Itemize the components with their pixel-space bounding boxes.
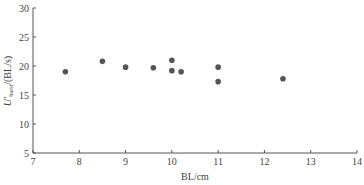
data-point [215,79,221,85]
y-tick-label: 5 [24,148,29,159]
data-point [123,64,129,70]
data-point [169,57,175,63]
y-tick-label: 15 [19,90,29,101]
data-point [169,68,175,74]
x-tick-label: 11 [213,156,223,167]
data-point [63,69,69,75]
data-point [280,76,286,82]
x-tick-label: 10 [167,156,177,167]
x-axis-label: BL/cm [181,171,209,182]
data-point [100,59,106,65]
y-tick-label: 20 [19,61,29,72]
x-tick-label: 12 [259,156,269,167]
scatter-chart: 510152025307891011121314 BL/cm U'burst/(… [0,0,364,185]
x-tick-label: 9 [123,156,128,167]
y-axis-label-sub: burst [8,84,14,96]
data-point [215,64,221,70]
y-axis-label: U'burst/(BL/s) [2,56,14,106]
y-tick-label: 10 [19,119,29,130]
data-points [63,57,286,84]
y-axis-label-unit: /(BL/s) [2,56,14,85]
x-tick-label: 8 [77,156,82,167]
data-point [151,65,157,71]
x-tick-label: 13 [306,156,316,167]
x-tick-label: 7 [31,156,36,167]
data-point [178,69,184,75]
y-tick-label: 25 [19,32,29,43]
axes: 510152025307891011121314 [19,3,362,168]
x-tick-label: 14 [352,156,362,167]
y-tick-label: 30 [19,3,29,14]
